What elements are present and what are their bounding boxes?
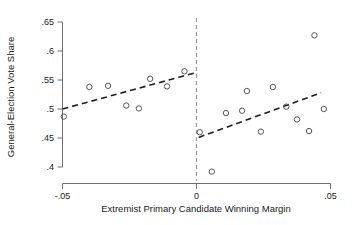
data-point	[87, 84, 92, 89]
data-point	[182, 69, 187, 74]
x-tick-label: -.05	[55, 191, 71, 201]
x-tick-group: -.050.05	[55, 184, 337, 202]
data-point	[61, 114, 66, 119]
data-point	[209, 169, 214, 174]
data-point	[244, 88, 249, 93]
data-point	[270, 84, 275, 89]
data-point-group	[61, 33, 326, 175]
data-point	[164, 84, 169, 89]
y-tick-label: .4	[46, 162, 54, 172]
y-tick-group: .4.45.5.55.6.65	[41, 17, 62, 172]
data-point	[258, 129, 263, 134]
data-point	[321, 106, 326, 111]
data-point	[312, 33, 317, 38]
y-tick-label: .65	[41, 17, 54, 27]
y-tick-label: .5	[46, 104, 54, 114]
data-point	[147, 76, 152, 81]
scatter-plot: .4.45.5.55.6.65 -.050.05 Extremist Prima…	[0, 0, 352, 225]
x-tick-label: .05	[324, 191, 337, 201]
data-point	[136, 106, 141, 111]
data-point	[306, 128, 311, 133]
data-point	[197, 130, 202, 135]
chart-figure: .4.45.5.55.6.65 -.050.05 Extremist Prima…	[0, 0, 352, 225]
x-axis-title: Extremist Primary Candidate Winning Marg…	[101, 203, 291, 214]
right-fit-line	[199, 93, 321, 138]
y-tick-label: .6	[46, 46, 54, 56]
data-point	[124, 103, 129, 108]
y-axis-title: General-Election Vote Share	[5, 37, 16, 157]
y-tick-label: .55	[41, 75, 54, 85]
y-tick-label: .45	[41, 133, 54, 143]
data-point	[239, 108, 244, 113]
data-point	[105, 83, 110, 88]
x-tick-label: 0	[194, 191, 199, 201]
data-point	[223, 110, 228, 115]
fit-line-group	[63, 73, 322, 137]
data-point	[294, 117, 299, 122]
